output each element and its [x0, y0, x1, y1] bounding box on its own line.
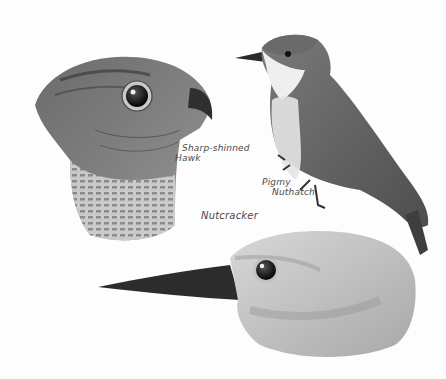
- nutcracker-head-drawing: [98, 231, 416, 357]
- nuthatch-label-line-2: Nuthatch: [272, 187, 315, 197]
- bird-illustrations: [0, 0, 446, 379]
- nuthatch-label: Pigmy Nuthatch: [262, 177, 315, 197]
- hawk-label-line-2: Hawk: [175, 153, 250, 163]
- bird-sketch-canvas: Sharp-shinned Hawk Pigmy Nuthatch Nutcra…: [0, 0, 446, 379]
- nuthatch-label-line-1: Pigmy: [262, 177, 315, 187]
- nuthatch-drawing: [235, 35, 428, 255]
- hawk-label-line-1: Sharp-shinned: [182, 143, 250, 153]
- nutcracker-label: Nutcracker: [201, 211, 258, 221]
- hawk-label: Sharp-shinned Hawk: [182, 143, 250, 163]
- nutcracker-label-line-1: Nutcracker: [201, 211, 258, 221]
